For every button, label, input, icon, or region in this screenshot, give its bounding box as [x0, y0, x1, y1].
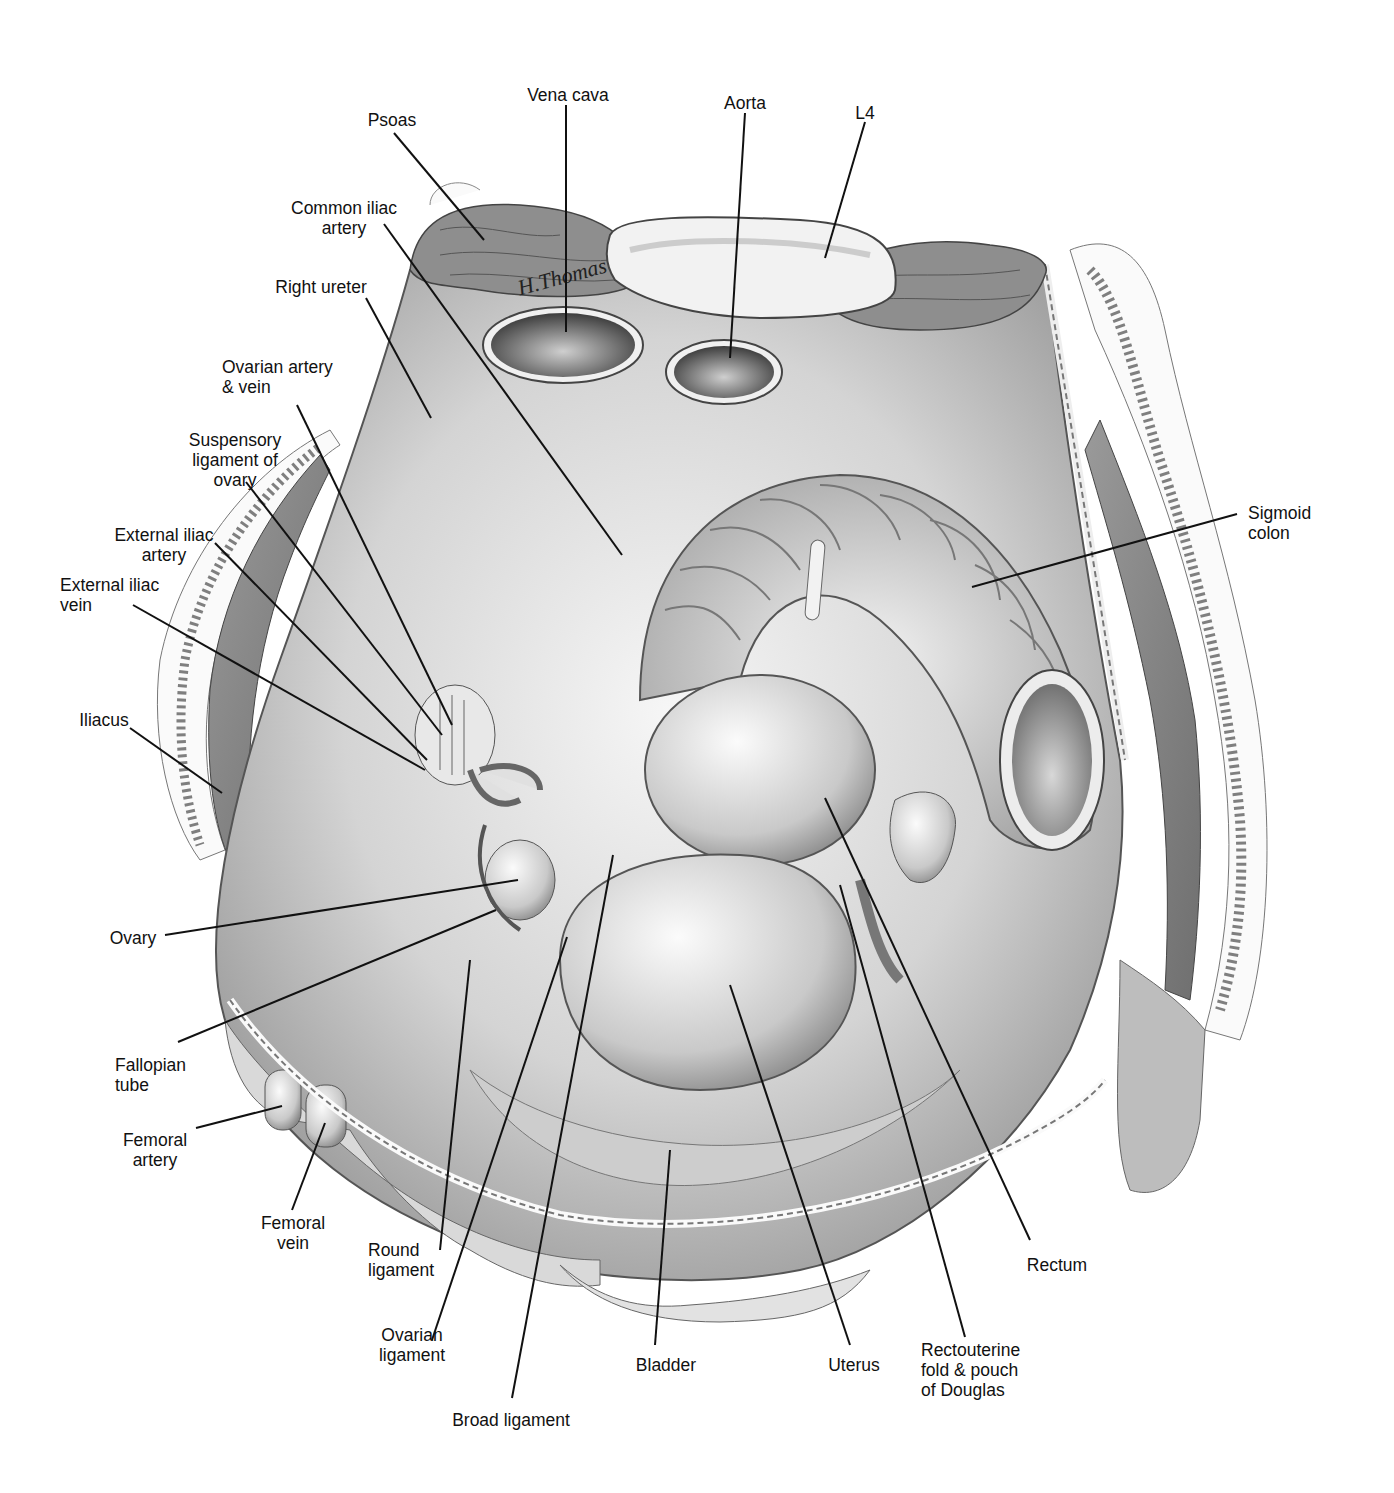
leader-line-suspensory-ligament [246, 482, 442, 735]
leader-line-femoral-artery [196, 1106, 282, 1128]
label-rectum: Rectum [1017, 1255, 1097, 1275]
leader-line-right-ureter [366, 298, 431, 418]
label-round-ligament: Round ligament [368, 1240, 468, 1280]
leader-line-aorta [730, 113, 745, 358]
label-femoral-artery: Femoral artery [110, 1130, 200, 1170]
label-broad-ligament: Broad ligament [441, 1410, 581, 1430]
label-right-ureter: Right ureter [256, 277, 386, 297]
leader-line-iliacus [130, 728, 222, 793]
leader-line-femoral-vein [292, 1123, 325, 1210]
leader-line-l4 [825, 122, 865, 258]
label-iliacus: Iliacus [64, 710, 144, 730]
label-uterus: Uterus [814, 1355, 894, 1375]
label-external-iliac-artery: External iliac artery [94, 525, 234, 565]
leader-line-ovary [165, 880, 518, 935]
label-fallopian-tube: Fallopian tube [115, 1055, 215, 1095]
label-vena-cava: Vena cava [508, 85, 628, 105]
leader-line-fallopian-tube [178, 910, 496, 1042]
label-sigmoid-colon: Sigmoid colon [1248, 503, 1328, 543]
leader-line-rectouterine-fold [840, 885, 965, 1337]
label-ovarian-artery-vein: Ovarian artery & vein [222, 357, 372, 397]
label-ovary: Ovary [98, 928, 168, 948]
leader-line-common-iliac-artery [384, 224, 622, 555]
label-psoas: Psoas [352, 110, 432, 130]
label-bladder: Bladder [621, 1355, 711, 1375]
leader-line-external-iliac-artery [215, 543, 427, 760]
leader-lines [0, 0, 1394, 1493]
leader-line-sigmoid-colon [972, 514, 1237, 587]
anatomy-figure: H.Thomas Vena cava Aorta L4 Psoas Com [0, 0, 1394, 1493]
label-l4: L4 [845, 103, 885, 123]
leader-line-bladder [655, 1150, 670, 1345]
leader-line-ovarian-artery-vein [297, 405, 452, 725]
leader-line-round-ligament [440, 960, 470, 1250]
label-suspensory-ligament: Suspensory ligament of ovary [170, 430, 300, 490]
label-rectouterine-fold: Rectouterine fold & pouch of Douglas [921, 1340, 1051, 1400]
label-ovarian-ligament: Ovarian ligament [367, 1325, 457, 1365]
label-femoral-vein: Femoral vein [248, 1213, 338, 1253]
label-external-iliac-vein: External iliac vein [60, 575, 200, 615]
leader-line-rectum [825, 798, 1030, 1240]
leader-line-external-iliac-vein [133, 605, 425, 770]
leader-line-uterus [730, 985, 850, 1345]
leader-line-broad-ligament [512, 855, 613, 1398]
label-aorta: Aorta [705, 93, 785, 113]
label-common-iliac-artery: Common iliac artery [274, 198, 414, 238]
